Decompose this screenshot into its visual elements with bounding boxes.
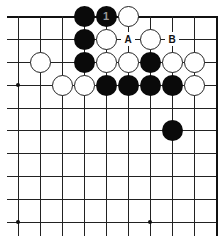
grid-line-horizontal	[7, 222, 217, 223]
grid-line-vertical	[194, 16, 195, 236]
grid-line-vertical	[62, 16, 63, 236]
grid-line-horizontal	[7, 199, 217, 200]
black-stone[interactable]	[162, 75, 183, 96]
white-stone[interactable]	[140, 29, 161, 50]
black-stone[interactable]	[74, 6, 95, 27]
go-board: AB1	[0, 0, 219, 238]
grid-line-vertical	[40, 16, 41, 236]
black-stone[interactable]	[118, 75, 139, 96]
grid-line-horizontal	[7, 108, 217, 109]
grid-line-horizontal	[7, 130, 217, 131]
board-right-edge	[216, 16, 218, 236]
star-point	[16, 220, 20, 224]
grid-line-horizontal	[7, 153, 217, 154]
white-stone[interactable]	[96, 29, 117, 50]
black-stone-move-1[interactable]: 1	[96, 6, 117, 27]
white-stone[interactable]	[162, 52, 183, 73]
star-point	[148, 220, 152, 224]
black-stone[interactable]	[140, 75, 161, 96]
white-stone[interactable]	[30, 52, 51, 73]
black-stone[interactable]	[162, 120, 183, 141]
grid-line-horizontal	[7, 176, 217, 177]
white-stone[interactable]	[184, 75, 205, 96]
white-stone[interactable]	[96, 52, 117, 73]
white-stone[interactable]	[52, 75, 73, 96]
black-stone[interactable]	[96, 75, 117, 96]
grid-line-vertical	[128, 16, 129, 236]
black-stone[interactable]	[74, 52, 95, 73]
point-label-b[interactable]: B	[165, 32, 179, 46]
black-stone[interactable]	[74, 29, 95, 50]
white-stone[interactable]	[118, 6, 139, 27]
white-stone[interactable]	[184, 52, 205, 73]
black-stone[interactable]	[140, 52, 161, 73]
white-stone[interactable]	[74, 75, 95, 96]
move-number: 1	[103, 10, 109, 22]
star-point	[16, 83, 20, 87]
white-stone[interactable]	[118, 52, 139, 73]
point-label-a[interactable]: A	[121, 32, 135, 46]
grid-line-vertical	[18, 16, 19, 236]
